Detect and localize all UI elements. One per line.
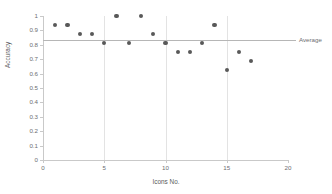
- data-point: [78, 32, 82, 36]
- grid-line-vertical: [227, 16, 228, 160]
- grid-line-vertical: [104, 16, 105, 160]
- x-axis-tick-label: 15: [223, 165, 230, 171]
- data-point: [176, 50, 180, 54]
- y-axis-tick-label: 0.4: [29, 99, 38, 105]
- y-axis-tick-label: 0.1: [29, 143, 38, 149]
- x-axis-tick-mark: [104, 160, 105, 163]
- x-axis-tick-label: 10: [162, 165, 169, 171]
- data-point: [200, 41, 204, 45]
- y-axis-title: Accuracy: [4, 42, 11, 68]
- y-axis-tick-label: 0.8: [29, 42, 38, 48]
- y-axis-tick-label: 0: [35, 157, 38, 163]
- y-axis-tick-mark: [40, 74, 43, 75]
- y-axis-tick-label: 0.7: [29, 56, 38, 62]
- x-axis-tick-label: 5: [103, 165, 106, 171]
- y-axis-tick-label: 1: [35, 13, 38, 19]
- scatter-chart: 00.10.20.30.40.50.60.70.80.91 Accuracy I…: [0, 0, 332, 194]
- x-axis-tick-mark: [166, 160, 167, 163]
- data-point: [212, 23, 216, 27]
- y-axis-tick-mark: [40, 102, 43, 103]
- data-point: [249, 59, 253, 63]
- data-point: [53, 23, 57, 27]
- y-axis-tick-mark: [40, 117, 43, 118]
- y-axis-tick-mark: [40, 30, 43, 31]
- data-point: [139, 14, 143, 18]
- y-axis-tick-mark: [40, 146, 43, 147]
- y-axis-tick-label: 0.5: [29, 85, 38, 91]
- x-axis-tick-mark: [288, 160, 289, 163]
- data-point: [127, 41, 131, 45]
- y-axis-tick-labels: 00.10.20.30.40.50.60.70.80.91: [0, 0, 38, 194]
- data-point: [163, 41, 167, 45]
- x-axis-line: [43, 160, 289, 161]
- data-point: [102, 41, 106, 45]
- y-axis-tick-mark: [40, 45, 43, 46]
- y-axis-tick-mark: [40, 16, 43, 17]
- y-axis-tick-mark: [40, 131, 43, 132]
- y-axis-tick-label: 0.3: [29, 114, 38, 120]
- plot-area: [43, 16, 288, 160]
- data-point: [114, 14, 118, 18]
- average-line-label: Average: [299, 37, 322, 43]
- average-reference-line: [43, 40, 296, 41]
- x-axis-tick-mark: [43, 160, 44, 163]
- data-point: [151, 32, 155, 36]
- y-axis-line: [43, 16, 44, 160]
- data-point: [188, 50, 192, 54]
- data-point: [237, 50, 241, 54]
- data-point: [225, 68, 229, 72]
- x-axis-title: Icons No.: [0, 178, 332, 185]
- x-axis-tick-label: 20: [285, 165, 292, 171]
- y-axis-tick-mark: [40, 59, 43, 60]
- y-axis-tick-label: 0.2: [29, 128, 38, 134]
- data-point: [90, 32, 94, 36]
- data-point: [65, 23, 69, 27]
- grid-line-vertical: [166, 16, 167, 160]
- x-axis-tick-mark: [227, 160, 228, 163]
- y-axis-tick-mark: [40, 88, 43, 89]
- y-axis-tick-label: 0.9: [29, 27, 38, 33]
- x-axis-tick-label: 0: [41, 165, 44, 171]
- y-axis-tick-label: 0.6: [29, 71, 38, 77]
